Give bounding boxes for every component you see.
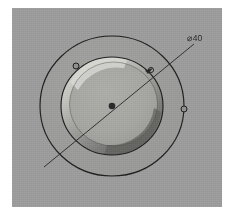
diameter-dimension-label[interactable]: ⌀40	[187, 33, 202, 43]
bore-rim-marker-upper-left	[73, 63, 79, 69]
center-point	[109, 103, 116, 110]
cad-3d-viewport[interactable]: ⌀40	[12, 8, 222, 207]
model-canvas[interactable]: ⌀40	[12, 8, 222, 207]
drawing-page: ⌀40	[0, 0, 231, 219]
outer-edge-marker-right	[181, 106, 187, 112]
